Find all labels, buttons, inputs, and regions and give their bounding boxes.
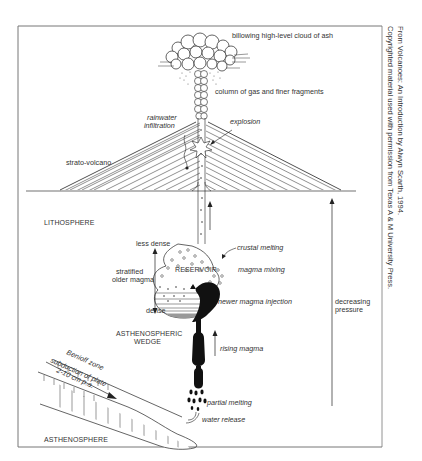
eruption-column (195, 71, 208, 120)
label-asthenosphere: ASTHENOSPHERE (44, 436, 108, 443)
label-rising-magma: rising magma (220, 344, 263, 353)
label-ash-cloud: billowing high-level cloud of ash (232, 31, 333, 40)
label-decreasing-pressure: decreasing pressure (335, 297, 372, 314)
label-newer-magma-injection: newer magma injection (218, 297, 292, 306)
label-less-dense: less dense (136, 239, 170, 248)
crustal-melting-leader (222, 248, 236, 259)
conduit-rise-arrow (208, 201, 213, 230)
credit-notice: From Volcanoes: An Introduction by Alwyn… (384, 26, 422, 356)
label-reservoir: RESERVOIR (175, 266, 217, 273)
volcano-diagram: billowing high-level cloud of ash column… (0, 0, 422, 461)
label-strato-volcano: strato-volcano (66, 158, 111, 167)
label-rainwater: rainwater infiltration (144, 113, 179, 130)
label-explosion: explosion (230, 117, 260, 126)
label-stratified-older-magma: stratified older magma (112, 267, 154, 284)
label-dense: dense (146, 306, 166, 315)
decreasing-pressure-arrow (330, 198, 335, 406)
label-crustal-melting: crustal melting (237, 243, 283, 252)
label-lithosphere: LITHOSPHERE (44, 219, 95, 226)
rainwater-path (184, 135, 188, 170)
water-release-marks (186, 412, 199, 423)
label-water-release: water release (202, 415, 245, 424)
credit-line-1: From Volcanoes: An Introduction by Alwyn… (396, 26, 405, 215)
label-asthenospheric-wedge: ASTHENOSPHERIC WEDGE (116, 330, 184, 345)
label-column: column of gas and finer fragments (215, 87, 324, 96)
rising-magma-arrow (213, 330, 218, 356)
magma-conduit (192, 118, 211, 244)
label-partial-melting: partial melting (206, 398, 252, 407)
credit-line-2: Copyrighted material used with permissio… (386, 26, 395, 289)
label-magma-mixing: magma mixing (238, 265, 285, 274)
rising-magma-body (187, 318, 206, 411)
